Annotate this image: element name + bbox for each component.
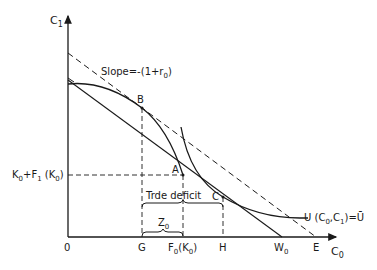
indifference-curve bbox=[181, 127, 308, 218]
x-tick-g: G bbox=[138, 242, 146, 253]
x-tick-f0: F0(K0) bbox=[168, 242, 197, 256]
point-b-marker bbox=[141, 107, 144, 110]
x-tick-w0: W0 bbox=[274, 242, 288, 256]
y-axis-label: C1 bbox=[50, 14, 63, 29]
point-a-marker bbox=[182, 174, 185, 177]
point-c-label: C bbox=[212, 191, 219, 202]
point-c-marker bbox=[222, 196, 225, 199]
trade-deficit-bracket bbox=[142, 200, 223, 207]
x-tick-e: E bbox=[313, 242, 319, 253]
point-a-label: A bbox=[172, 164, 179, 175]
y-tick-k0-f1: K0+F1 (K0) bbox=[12, 169, 64, 183]
world-price-line bbox=[68, 53, 316, 237]
origin-label: 0 bbox=[64, 242, 70, 253]
trade-deficit-label: Trde deficit bbox=[145, 190, 201, 201]
point-b-label: B bbox=[137, 94, 144, 105]
slope-annotation: Slope=-(1+r0) bbox=[101, 66, 172, 80]
utility-curve-label: U (C0,C1)=Ū bbox=[304, 211, 364, 226]
production-possibility-curve bbox=[68, 84, 183, 176]
z0-label: Z0 bbox=[158, 217, 169, 231]
intertemporal-trade-diagram: C1 C0 0 Slope=-(1+r0) B A C Trde deficit… bbox=[0, 0, 377, 270]
x-axis-label: C0 bbox=[331, 245, 344, 260]
budget-line bbox=[68, 80, 282, 237]
z0-bracket bbox=[142, 229, 183, 236]
x-tick-h: H bbox=[219, 242, 227, 253]
